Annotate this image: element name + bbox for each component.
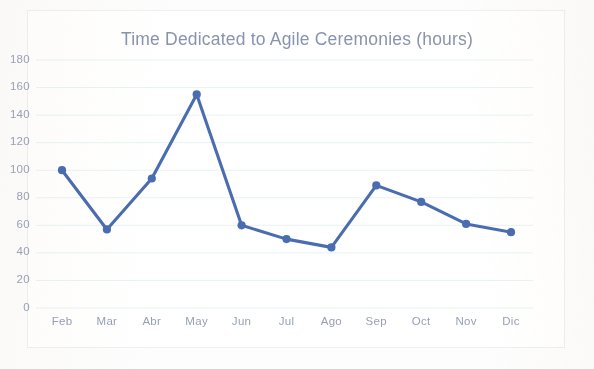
x-axis-tick-label: Dic (488, 315, 534, 327)
x-axis-tick-label: Mar (84, 315, 130, 327)
y-axis-tick-label: 160 (0, 80, 30, 92)
y-axis-tick-label: 100 (0, 163, 30, 175)
y-axis-tick-label: 60 (0, 218, 30, 230)
x-axis-tick-label: Abr (129, 315, 175, 327)
x-axis-tick-label: Nov (443, 315, 489, 327)
y-axis-tick-label: 20 (0, 273, 30, 285)
y-axis-tick-label: 0 (0, 301, 30, 313)
y-axis-tick-label: 120 (0, 135, 30, 147)
x-axis-tick-label: Sep (353, 315, 399, 327)
y-axis-tick-label: 180 (0, 53, 30, 65)
x-axis-tick-label: Ago (308, 315, 354, 327)
x-axis-tick-label: Jun (219, 315, 265, 327)
y-axis-tick-label: 40 (0, 245, 30, 257)
y-axis-tick-label: 80 (0, 190, 30, 202)
scanned-chart-page: Time Dedicated to Agile Ceremonies (hour… (0, 0, 594, 369)
x-axis-tick-label: Feb (39, 315, 85, 327)
x-axis-tick-label: Jul (264, 315, 310, 327)
y-axis-tick-label: 140 (0, 108, 30, 120)
x-axis-tick-label: May (174, 315, 220, 327)
axis-tick-layer: 180160140120100806040200 FebMarAbrMayJun… (0, 0, 567, 359)
x-axis-tick-label: Oct (398, 315, 444, 327)
